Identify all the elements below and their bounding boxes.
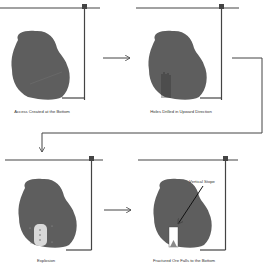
diagram-canvas: [0, 0, 266, 266]
vertical-stope-annotation: Vertical Stope: [189, 179, 215, 184]
ore-body: [18, 179, 76, 248]
panel-2-holes-drilled: [136, 4, 239, 100]
panel-3-explosion: [5, 156, 103, 250]
panel-1-access-created: [0, 4, 100, 100]
ore-body: [148, 31, 206, 100]
panel-2-caption: Holes Drilled in Upward Direction: [150, 109, 211, 114]
panel-4-fractured-ore: [138, 156, 238, 250]
panel-3-caption: Explosion: [37, 258, 55, 263]
ore-body: [153, 179, 211, 248]
ore-body: [11, 31, 69, 100]
panel-1-caption: Access Created at the Bottom: [14, 109, 70, 114]
panel-4-caption: Fractured Ore Falls to the Bottom: [153, 258, 215, 263]
